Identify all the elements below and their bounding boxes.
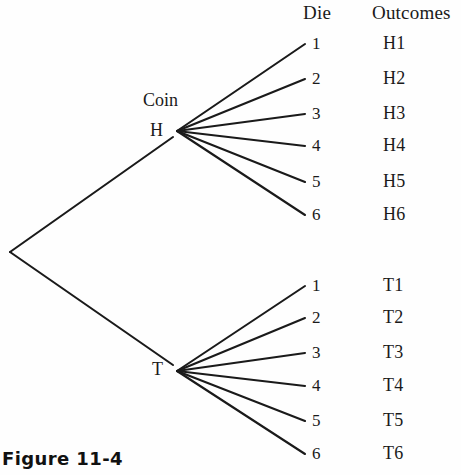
outcome-label-h5: H5 bbox=[383, 172, 406, 190]
die-label-h-1: 1 bbox=[312, 35, 321, 52]
die-label-t-3: 3 bbox=[312, 344, 321, 361]
edge-root-to-heads bbox=[10, 137, 173, 252]
node-label-tails: T bbox=[152, 360, 163, 378]
die-label-t-4: 4 bbox=[312, 377, 321, 394]
die-label-h-5: 5 bbox=[312, 173, 321, 190]
outcome-label-h1: H1 bbox=[383, 34, 406, 52]
die-label-h-4: 4 bbox=[312, 137, 321, 154]
die-label-h-3: 3 bbox=[312, 105, 321, 122]
column-header-outcomes: Outcomes bbox=[372, 3, 451, 22]
stage-label-coin: Coin bbox=[143, 91, 178, 109]
outcome-label-t1: T1 bbox=[383, 276, 404, 294]
figure-tree-diagram: Die Outcomes Coin H T 123456123456 H1H2H… bbox=[0, 0, 461, 475]
die-label-t-1: 1 bbox=[312, 277, 321, 294]
outcome-label-t3: T3 bbox=[383, 343, 404, 361]
edge-root-to-tails bbox=[10, 252, 173, 365]
outcome-label-h2: H2 bbox=[383, 69, 406, 87]
die-label-h-6: 6 bbox=[312, 206, 321, 223]
edge-t-to-die-1 bbox=[177, 286, 305, 371]
node-label-heads: H bbox=[150, 121, 163, 139]
outcome-label-t6: T6 bbox=[383, 444, 404, 462]
die-label-t-2: 2 bbox=[312, 309, 321, 326]
die-label-t-5: 5 bbox=[312, 412, 321, 429]
die-label-t-6: 6 bbox=[312, 445, 321, 462]
die-label-h-2: 2 bbox=[312, 70, 321, 87]
outcome-label-t5: T5 bbox=[383, 411, 404, 429]
outcome-label-h3: H3 bbox=[383, 104, 406, 122]
outcome-label-t4: T4 bbox=[383, 376, 404, 394]
column-header-die: Die bbox=[303, 3, 331, 22]
outcome-label-t2: T2 bbox=[383, 308, 404, 326]
outcome-label-h4: H4 bbox=[383, 136, 406, 154]
figure-caption: Figure 11-4 bbox=[2, 448, 123, 469]
outcome-label-h6: H6 bbox=[383, 205, 406, 223]
